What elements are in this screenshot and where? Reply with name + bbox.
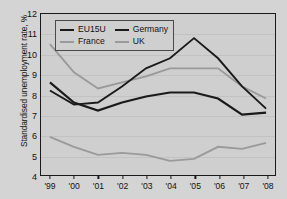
- y-tick-label: 4: [32, 172, 37, 182]
- y-tick-label: 5: [32, 152, 37, 162]
- y-tick-label: 9: [32, 70, 37, 80]
- x-tick-label: '00: [69, 181, 80, 191]
- x-tick-label: '01: [93, 181, 104, 191]
- y-tick-label: 7: [32, 111, 37, 121]
- legend-item-uk[interactable]: UK: [115, 36, 168, 47]
- x-tick-mark: [146, 175, 147, 179]
- y-tick-label: 10: [27, 50, 37, 60]
- chart-legend: EU15UGermanyFranceUK: [55, 20, 174, 51]
- x-tick-label: '07: [238, 181, 249, 191]
- x-tick-mark: [171, 175, 172, 179]
- x-tick-label: '03: [141, 181, 152, 191]
- legend-item-france[interactable]: France: [60, 36, 106, 47]
- legend-label: France: [78, 36, 105, 47]
- x-tick-mark: [195, 175, 196, 179]
- legend-label: EU15U: [78, 24, 106, 35]
- x-tick-label: '05: [190, 181, 201, 191]
- legend-swatch-germany: [115, 29, 129, 31]
- legend-swatch-france: [60, 41, 74, 43]
- y-tick-label: 8: [32, 91, 37, 101]
- plot-area: 456789101112 '99'00'01'02'03'04'05'06'07…: [40, 13, 276, 176]
- y-tick-label: 12: [27, 9, 37, 19]
- x-tick-mark: [219, 175, 220, 179]
- x-tick-mark: [267, 175, 268, 179]
- x-tick-label: '02: [117, 181, 128, 191]
- legend-item-germany[interactable]: Germany: [115, 24, 168, 35]
- legend-item-eu15u[interactable]: EU15U: [60, 24, 106, 35]
- x-tick-mark: [49, 175, 50, 179]
- x-tick-label: '06: [214, 181, 225, 191]
- x-tick-mark: [243, 175, 244, 179]
- x-tick-mark: [98, 175, 99, 179]
- chart-figure: Standardised unemployment rate, % 456789…: [0, 0, 287, 199]
- legend-swatch-eu15u: [60, 29, 74, 31]
- x-tick-mark: [74, 175, 75, 179]
- x-tick-label: '04: [166, 181, 177, 191]
- y-tick-label: 6: [32, 131, 37, 141]
- x-tick-mark: [122, 175, 123, 179]
- legend-swatch-uk: [115, 41, 129, 43]
- legend-label: Germany: [133, 24, 168, 35]
- y-axis-title: Standardised unemployment rate, %: [19, 3, 29, 159]
- series-line-uk: [50, 137, 266, 161]
- x-tick-label: '08: [262, 181, 273, 191]
- legend-label: UK: [133, 36, 145, 47]
- x-tick-label: '99: [44, 181, 55, 191]
- figure-canvas: Standardised unemployment rate, % 456789…: [4, 4, 283, 195]
- y-tick-label: 11: [28, 29, 37, 39]
- series-line-eu15u: [50, 82, 266, 114]
- series-line-france: [50, 44, 266, 98]
